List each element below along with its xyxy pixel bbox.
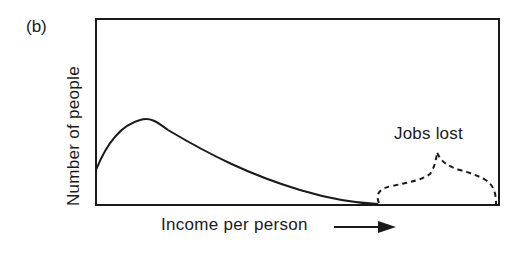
annotation-jobs-lost: Jobs lost <box>394 124 463 144</box>
plot-frame <box>96 19 499 205</box>
y-axis-label: Number of people <box>64 66 84 206</box>
x-axis-arrow-icon <box>334 221 396 233</box>
x-axis-label: Income per person <box>161 215 308 235</box>
jobs-lost-curve <box>378 152 496 204</box>
income-distribution-curve <box>96 119 378 204</box>
